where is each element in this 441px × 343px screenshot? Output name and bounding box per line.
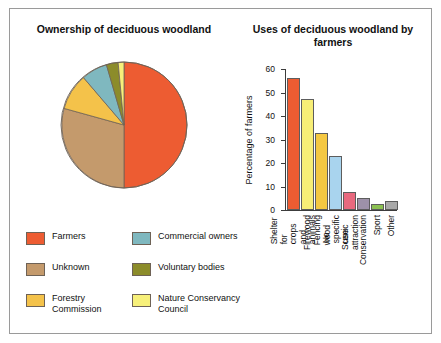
- legend-item-voluntary-bodies: Voluntary bodies: [132, 262, 252, 292]
- y-tick: 60: [281, 69, 285, 70]
- y-axis-label: Percentage of farmers: [244, 95, 254, 184]
- bar-chart-plot-area: Percentage of farmers 0 10 20 30 40 50 6…: [285, 69, 397, 211]
- pie-chart-title: Ownership of deciduous woodland: [10, 23, 238, 36]
- legend-item-commercial-owners: Commercial owners: [132, 231, 252, 261]
- pie-slice-farmers: [124, 62, 187, 188]
- legend-item-unknown: Unknown: [26, 262, 130, 292]
- bar-conservation: Conservation: [357, 198, 370, 210]
- legend-label-unknown: Unknown: [52, 262, 90, 273]
- bar-chart-panel: Uses of deciduous woodland by farmers Pe…: [238, 9, 432, 333]
- legend-row: Farmers Commercial owners: [26, 231, 238, 261]
- x-axis-line: [285, 210, 397, 211]
- legend-label-farmers: Farmers: [52, 231, 86, 242]
- x-axis-label-scenic-attraction: Scenic attraction: [340, 215, 359, 250]
- pie-svg: [60, 61, 188, 189]
- legend-swatch-forestry-commission: [26, 294, 45, 307]
- pie-legend: Farmers Commercial owners Unknown Volunt…: [26, 231, 238, 327]
- y-tick-label: 50: [266, 88, 275, 98]
- legend-label-forestry-commission: Forestry Commission: [52, 293, 102, 314]
- y-tick-label: 30: [266, 135, 275, 145]
- legend-label-voluntary-bodies: Voluntary bodies: [158, 262, 225, 273]
- x-axis-label-conservation: Conservation: [359, 215, 369, 265]
- y-tick: 0: [281, 210, 285, 211]
- pie-chart-panel: Ownership of deciduous woodland: [10, 9, 238, 333]
- y-tick-label: 10: [266, 182, 275, 192]
- figure-panel: Ownership of deciduous woodland: [9, 8, 432, 334]
- legend-swatch-nature-conservancy-council: [132, 294, 151, 307]
- legend-swatch-voluntary-bodies: [132, 263, 151, 276]
- legend-swatch-farmers: [26, 232, 45, 245]
- legend-item-farmers: Farmers: [26, 231, 130, 261]
- y-tick-label: 40: [266, 111, 275, 121]
- y-axis-line: [285, 69, 286, 211]
- y-tick: 10: [281, 187, 285, 188]
- bar-chart-title: Uses of deciduous woodland by farmers: [238, 23, 428, 49]
- legend-row: Unknown Voluntary bodies: [26, 262, 238, 292]
- legend-swatch-unknown: [26, 263, 45, 276]
- y-tick: 30: [281, 140, 285, 141]
- y-tick: 50: [281, 93, 285, 94]
- legend-swatch-commercial-owners: [132, 232, 151, 245]
- pie-chart-graphic: [60, 61, 188, 189]
- y-tick-label: 60: [266, 64, 275, 74]
- bar-scenic-attraction: Scenic attraction: [343, 192, 356, 210]
- x-axis-label-other: Other: [387, 215, 397, 236]
- y-tick-label: 0: [270, 205, 275, 215]
- y-tick: 20: [281, 163, 285, 164]
- x-axis-label-sport: Sport: [373, 215, 383, 235]
- legend-row: Forestry Commission Nature Conservancy C…: [26, 293, 238, 323]
- bar-no-specific-use: No specific use: [329, 156, 342, 210]
- legend-item-forestry-commission: Forestry Commission: [26, 293, 130, 323]
- bar-firewood: Firewood: [301, 99, 314, 210]
- bar-fencing-wood: Fencing wood: [315, 133, 328, 210]
- y-tick-label: 20: [266, 158, 275, 168]
- y-tick: 40: [281, 116, 285, 117]
- legend-item-nature-conservancy-council: Nature Conservancy Council: [132, 293, 252, 323]
- bar-shelter-for-crops-and-animals: Shelter for crops and animals: [287, 78, 300, 211]
- bar-other: Other: [385, 201, 398, 211]
- bar-sport: Sport: [371, 204, 384, 210]
- legend-label-commercial-owners: Commercial owners: [158, 231, 238, 242]
